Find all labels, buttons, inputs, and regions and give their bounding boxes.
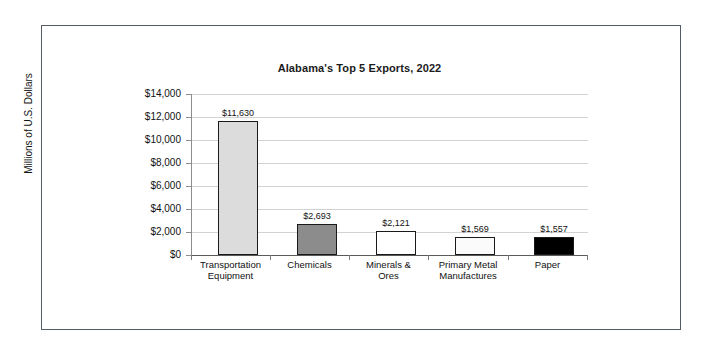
y-tick-label: $0 xyxy=(119,249,181,260)
bar-value-label: $1,569 xyxy=(446,224,504,234)
bar-value-label: $11,630 xyxy=(209,108,267,118)
bar-group-primary-metal-manufactures: $1,569 xyxy=(446,94,504,255)
y-tick-label: $12,000 xyxy=(119,111,181,122)
y-axis-title: Millions of U.S. Dollars xyxy=(23,44,34,204)
y-tick-label: $6,000 xyxy=(119,180,181,191)
bar-transportation-equipment[interactable] xyxy=(218,121,258,255)
y-tick-label: $4,000 xyxy=(119,203,181,214)
bar-group-chemicals: $2,693 xyxy=(288,94,346,255)
x-axis-category-label-primary-metal-manufactures: Primary Metal Manufactures xyxy=(428,259,508,281)
chart-title: Alabama's Top 5 Exports, 2022 xyxy=(0,62,719,74)
category-line: Primary Metal xyxy=(428,259,508,270)
y-tick-label: $14,000 xyxy=(119,88,181,99)
bar-group-transportation-equipment: $11,630 xyxy=(209,94,267,255)
y-tick-label: $8,000 xyxy=(119,157,181,168)
category-line: Chemicals xyxy=(270,259,349,270)
bar-paper[interactable] xyxy=(534,237,574,255)
category-line: Paper xyxy=(508,259,587,270)
x-axis-line xyxy=(191,255,588,256)
x-axis-tick xyxy=(587,255,588,260)
bar-group-paper: $1,557 xyxy=(525,94,583,255)
bar-value-label: $2,693 xyxy=(288,211,346,221)
chart-figure: Alabama's Top 5 Exports, 2022 Millions o… xyxy=(0,0,719,355)
bar-value-label: $1,557 xyxy=(525,224,583,234)
bar-primary-metal-manufactures[interactable] xyxy=(455,237,495,255)
bar-group-minerals-ores: $2,121 xyxy=(367,94,425,255)
category-line: Transportation xyxy=(191,259,270,270)
x-axis-category-label-minerals-ores: Minerals & Ores xyxy=(349,259,428,281)
category-line: Minerals & xyxy=(349,259,428,270)
category-line: Manufactures xyxy=(428,270,508,281)
bar-value-label: $2,121 xyxy=(367,218,425,228)
x-axis-category-label-chemicals: Chemicals xyxy=(270,259,349,270)
x-axis-category-label-transportation-equipment: Transportation Equipment xyxy=(191,259,270,281)
x-axis-category-label-paper: Paper xyxy=(508,259,587,270)
y-axis-tick-labels: $14,000 $12,000 $10,000 $8,000 $6,000 $4… xyxy=(119,0,181,355)
plot-area: $11,630 $2,693 $2,121 $1,569 $1,557 xyxy=(191,94,588,255)
bar-minerals-ores[interactable] xyxy=(376,231,416,255)
y-axis-line xyxy=(191,94,192,256)
bar-chemicals[interactable] xyxy=(297,224,337,255)
category-line: Equipment xyxy=(191,270,270,281)
y-tick-label: $2,000 xyxy=(119,226,181,237)
category-line: Ores xyxy=(349,270,428,281)
y-tick-label: $10,000 xyxy=(119,134,181,145)
